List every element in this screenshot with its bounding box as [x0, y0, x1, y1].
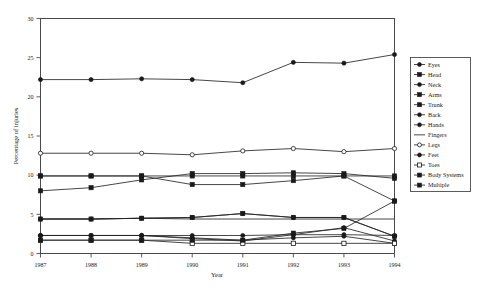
- x-tick-label: 1993: [338, 262, 350, 268]
- legend-item-label: Multiple: [428, 181, 450, 188]
- y-tick-label: 0: [31, 251, 34, 257]
- legend-item-label: Trunk: [428, 101, 444, 108]
- data-point-marker: [140, 151, 144, 155]
- data-point-marker: [38, 233, 42, 237]
- data-point-marker: [291, 241, 295, 245]
- legend-item-label: Hands: [428, 121, 444, 128]
- data-point-marker: [291, 179, 295, 183]
- data-point-marker: [89, 174, 93, 178]
- data-point-marker: [342, 226, 346, 230]
- x-tick-label: 1989: [136, 262, 148, 268]
- data-point-marker: [89, 186, 93, 190]
- data-point-marker: [38, 151, 42, 155]
- data-point-marker: [190, 233, 194, 237]
- legend-item-label: Feet: [428, 151, 439, 158]
- data-point-marker: [418, 163, 422, 167]
- y-tick-label: 15: [28, 133, 34, 139]
- data-point-marker: [418, 83, 422, 87]
- y-tick-label: 30: [28, 16, 34, 22]
- data-point-marker: [342, 215, 346, 219]
- legend-item-label: Back: [428, 111, 442, 118]
- data-point-marker: [241, 172, 245, 176]
- data-point-marker: [140, 216, 144, 220]
- data-point-marker: [392, 146, 396, 150]
- data-point-marker: [418, 123, 422, 127]
- data-point-marker: [140, 174, 144, 178]
- data-point-marker: [140, 233, 144, 237]
- data-point-marker: [190, 153, 194, 157]
- x-tick-label: 1987: [35, 262, 47, 268]
- data-point-marker: [89, 151, 93, 155]
- data-point-marker: [38, 174, 42, 178]
- data-point-marker: [190, 238, 194, 242]
- legend-item-label: Neck: [428, 81, 442, 88]
- y-tick-label: 20: [28, 94, 34, 100]
- data-point-marker: [140, 178, 144, 182]
- data-point-marker: [291, 215, 295, 219]
- data-point-marker: [291, 60, 295, 64]
- data-point-marker: [342, 174, 346, 178]
- data-point-marker: [190, 215, 194, 219]
- data-point-marker: [342, 61, 346, 65]
- data-point-marker: [291, 146, 295, 150]
- data-point-marker: [241, 238, 245, 242]
- data-point-marker: [241, 149, 245, 153]
- x-tick-label: 1991: [237, 262, 249, 268]
- data-point-marker: [418, 63, 422, 67]
- data-point-marker: [392, 234, 396, 238]
- x-tick-label: 1994: [389, 262, 401, 268]
- legend-item-label: Toes: [428, 161, 440, 168]
- data-point-marker: [418, 173, 422, 177]
- legend-item-label: Arms: [428, 91, 442, 98]
- data-point-marker: [190, 78, 194, 82]
- data-point-marker: [241, 182, 245, 186]
- x-tick-label: 1990: [186, 262, 198, 268]
- data-point-marker: [418, 103, 422, 107]
- data-point-marker: [38, 238, 42, 242]
- data-point-marker: [89, 233, 93, 237]
- data-point-marker: [89, 238, 93, 242]
- data-point-marker: [89, 78, 93, 82]
- legend-item-label: Eyes: [428, 61, 441, 68]
- data-point-marker: [418, 153, 422, 157]
- y-tick-label: 5: [31, 212, 34, 218]
- data-point-marker: [342, 233, 346, 237]
- legend-item-label: Legs: [428, 141, 441, 148]
- legend-item-label: Fingers: [428, 131, 447, 138]
- legend-item-label: Head: [428, 71, 442, 78]
- data-point-marker: [38, 78, 42, 82]
- data-point-marker: [418, 143, 422, 147]
- x-tick-label: 1988: [85, 262, 97, 268]
- data-point-marker: [342, 241, 346, 245]
- injury-percentage-line-chart: 051015202530 198719881989199019911992199…: [0, 0, 488, 293]
- data-point-marker: [38, 217, 42, 221]
- data-point-marker: [291, 231, 295, 235]
- y-tick-label: 25: [28, 55, 34, 61]
- y-tick-label: 10: [28, 172, 34, 178]
- data-point-marker: [140, 238, 144, 242]
- data-point-marker: [418, 93, 422, 97]
- data-point-marker: [392, 176, 396, 180]
- data-point-marker: [241, 233, 245, 237]
- data-point-marker: [418, 73, 422, 77]
- x-axis-title: Year: [211, 271, 224, 278]
- data-point-marker: [241, 81, 245, 85]
- legend-item-label: Body Systems: [428, 171, 464, 178]
- data-point-marker: [291, 171, 295, 175]
- data-point-marker: [38, 189, 42, 193]
- x-tick-label: 1992: [287, 262, 299, 268]
- data-point-marker: [89, 217, 93, 221]
- data-point-marker: [190, 182, 194, 186]
- data-point-marker: [140, 77, 144, 81]
- data-point-marker: [392, 199, 396, 203]
- data-point-marker: [418, 183, 422, 187]
- y-axis-title: Percentage of injuries: [12, 107, 19, 164]
- data-point-marker: [418, 113, 422, 117]
- data-point-marker: [241, 211, 245, 215]
- data-point-marker: [190, 172, 194, 176]
- line-chart-figure: 051015202530 198719881989199019911992199…: [0, 0, 488, 293]
- data-point-marker: [342, 150, 346, 154]
- data-point-marker: [392, 241, 396, 245]
- data-point-marker: [392, 52, 396, 56]
